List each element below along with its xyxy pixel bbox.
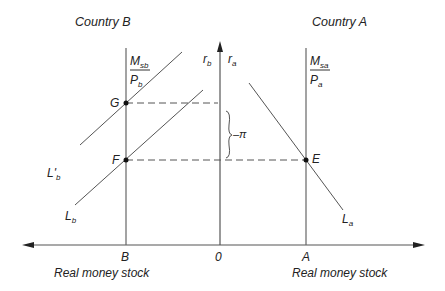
caption-left: Real money stock <box>54 266 150 280</box>
country-a-title: Country A <box>312 15 367 29</box>
brace-icon <box>226 111 232 158</box>
point-f <box>124 158 129 163</box>
country-b-title: Country B <box>75 15 131 29</box>
minus-pi-label: –π <box>232 128 247 140</box>
money-market-diagram: Country B Country A –π G F E rb ra <box>0 0 445 291</box>
label-pa: Pa <box>310 73 323 89</box>
curve-la <box>249 83 343 210</box>
label-rb: rb <box>203 52 212 68</box>
label-pb: Pb <box>130 73 143 89</box>
point-g <box>124 101 129 106</box>
label-msb: Msb <box>130 54 149 70</box>
label-lb: Lb <box>65 209 77 225</box>
label-lb-prime: L'b <box>47 166 61 182</box>
caption-right: Real money stock <box>292 266 388 280</box>
label-g: G <box>110 96 119 110</box>
label-ra: ra <box>228 52 237 68</box>
label-a: A <box>301 250 310 264</box>
left-arrow-icon <box>22 242 34 248</box>
curve-lb <box>75 90 203 205</box>
label-origin: 0 <box>215 250 222 264</box>
label-la: La <box>342 212 354 228</box>
label-e: E <box>312 152 321 166</box>
point-e <box>304 158 309 163</box>
label-b: B <box>121 250 129 264</box>
label-msa: Msa <box>310 54 329 70</box>
up-arrow-icon <box>217 41 223 52</box>
right-arrow-icon <box>413 242 425 248</box>
label-f: F <box>112 153 120 167</box>
